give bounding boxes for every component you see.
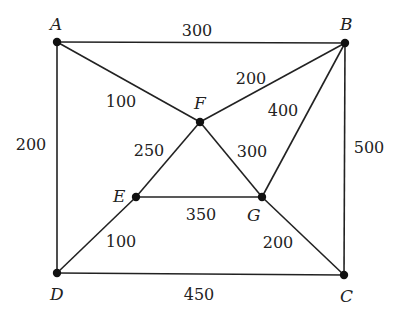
node-labels: ABCDEFG: [48, 14, 353, 306]
node-label-f: F: [193, 93, 207, 113]
weight-label-bf: 200: [236, 69, 267, 88]
weight-label-bg: 400: [268, 101, 299, 120]
node-d: [53, 269, 61, 277]
weight-label-fg: 300: [237, 142, 268, 161]
node-label-g: G: [247, 205, 261, 225]
node-e: [132, 193, 140, 201]
nodes: [53, 38, 349, 279]
weight-label-af: 100: [106, 92, 137, 111]
weight-label-eg: 350: [186, 205, 217, 224]
node-f: [196, 118, 204, 126]
node-b: [341, 39, 349, 47]
weight-label-ed: 100: [106, 232, 137, 251]
node-label-c: C: [340, 286, 353, 306]
edges: [57, 42, 345, 275]
weight-label-dc: 450: [184, 285, 215, 304]
graph-diagram: 300100200200400500250300350100200450 ABC…: [0, 0, 400, 315]
edge-b-c: [344, 43, 345, 275]
node-g: [258, 193, 266, 201]
weight-label-gc: 200: [263, 233, 294, 252]
node-label-a: A: [48, 14, 62, 34]
edge-d-c: [57, 273, 344, 275]
weight-label-ad: 200: [16, 135, 47, 154]
node-label-e: E: [112, 186, 126, 206]
weight-label-ab: 300: [182, 21, 213, 40]
node-label-b: B: [339, 14, 353, 34]
weight-label-bc: 500: [354, 138, 385, 157]
node-a: [53, 38, 61, 46]
weight-label-fe: 250: [134, 141, 165, 160]
node-label-d: D: [49, 284, 64, 304]
edge-a-b: [57, 42, 345, 43]
node-c: [340, 271, 348, 279]
